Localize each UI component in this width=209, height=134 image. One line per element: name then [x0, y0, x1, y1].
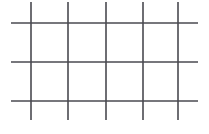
grid-figure [0, 0, 209, 134]
grid-canvas [0, 0, 209, 134]
